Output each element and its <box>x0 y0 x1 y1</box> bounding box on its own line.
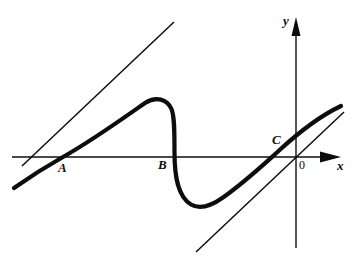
y-axis-arrow-icon <box>292 17 301 36</box>
x-axis-label: x <box>337 159 344 172</box>
point-label-b: B <box>158 158 167 171</box>
s-curve <box>14 99 341 207</box>
point-label-a: A <box>58 161 67 174</box>
coordinate-plot <box>0 0 363 265</box>
y-axis-label: y <box>283 14 289 27</box>
point-label-c: C <box>272 133 281 146</box>
figure-canvas: A B C 0 x y <box>0 0 363 265</box>
secant-line-lower-right <box>196 112 344 252</box>
secant-line-upper-left <box>22 22 174 166</box>
origin-label: 0 <box>299 159 305 171</box>
